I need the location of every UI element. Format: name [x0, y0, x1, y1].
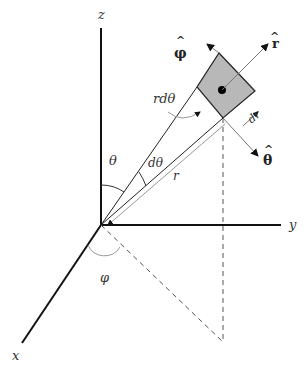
dtheta-arc [139, 172, 146, 186]
radial-line-theta-dtheta [101, 118, 223, 225]
theta-hat-label: θ [263, 152, 272, 168]
projection-line-xy [101, 225, 223, 342]
x-axis-label: x [12, 348, 20, 363]
r-hat-label: r [272, 36, 279, 51]
dtheta-label: dθ [148, 156, 164, 170]
phi-hat-arrow [207, 44, 219, 53]
r-label: r [173, 169, 180, 183]
z-axis-label: z [97, 7, 105, 22]
x-axis [22, 225, 101, 343]
theta-label: θ [109, 153, 117, 168]
phi-arc [88, 245, 120, 256]
dr-label: dr [245, 108, 263, 126]
spherical-coordinates-diagram: z y x θ dθ φ r rdθ dr ^ r ^ θ ^ φ [0, 0, 306, 371]
theta-arc [101, 185, 124, 192]
phi-label: φ [100, 270, 110, 285]
phi-hat-label: φ [174, 45, 187, 61]
rdtheta-pointer [168, 112, 200, 118]
r-length-arrow [108, 124, 225, 225]
y-axis-label: y [288, 217, 297, 232]
rdtheta-label: rdθ [153, 91, 176, 106]
